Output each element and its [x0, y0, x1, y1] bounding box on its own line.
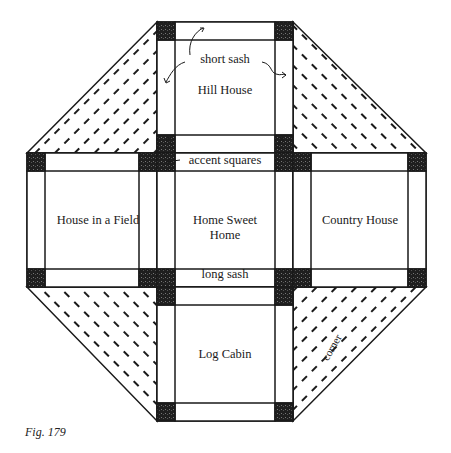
block-label-hill-house: Hill House — [160, 83, 290, 98]
figure-caption: Fig. 179 — [25, 425, 66, 440]
block-label-home-sweet-home: Home Sweet Home — [165, 213, 285, 243]
label-long-sash: long sash — [165, 267, 285, 282]
block-label-house-in-a-field: House in a Field — [38, 213, 158, 228]
label-short-sash: short sash — [180, 52, 270, 67]
block-label-log-cabin: Log Cabin — [165, 347, 285, 362]
block-label-country-house: Country House — [300, 213, 420, 228]
label-accent-squares: accent squares — [170, 153, 280, 168]
